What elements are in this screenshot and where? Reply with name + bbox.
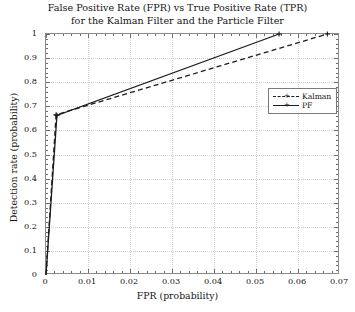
series-line-pf	[46, 34, 279, 275]
roc-chart-figure: False Positive Rate (FPR) vs True Positi…	[0, 0, 355, 312]
data-curves-layer	[46, 34, 340, 275]
x-tick-label: 0.04	[204, 276, 222, 286]
y-tick-label: 0.3	[24, 197, 37, 207]
x-tick-label: 0.07	[330, 276, 348, 286]
chart-title-line-1: False Positive Rate (FPR) vs True Positi…	[0, 2, 355, 15]
x-tick-label: 0.02	[120, 276, 138, 286]
data-point-marker	[325, 31, 330, 36]
x-tick-label: 0.06	[288, 276, 306, 286]
x-tick-label: 0.05	[246, 276, 264, 286]
y-tick-label: 0.2	[24, 221, 37, 231]
legend-swatch-kalman: +	[273, 92, 299, 101]
y-tick-label: 0.5	[24, 149, 37, 159]
y-tick-label: 0.9	[24, 52, 37, 62]
chart-title-line-2: for the Kalman Filter and the Particle F…	[0, 15, 355, 28]
plot-area	[45, 33, 339, 274]
legend-swatch-pf: +	[273, 101, 299, 110]
data-point-marker	[54, 113, 59, 118]
data-point-marker	[277, 31, 282, 36]
legend-item-pf: + PF	[273, 101, 331, 110]
x-axis-title: FPR (probability)	[0, 290, 355, 301]
y-tick-label: 0	[32, 269, 37, 279]
y-tick-label: 0.8	[24, 76, 37, 86]
x-tick-label: 0.01	[78, 276, 96, 286]
series-line-kalman	[46, 34, 327, 275]
legend-item-kalman: + Kalman	[273, 92, 331, 101]
legend-box: + Kalman + PF	[268, 88, 337, 114]
y-tick-label: 1	[32, 28, 37, 38]
y-tick-label: 0.4	[24, 173, 37, 183]
legend-label-kalman: Kalman	[302, 92, 331, 101]
legend-label-pf: PF	[302, 101, 312, 110]
x-tick-label: 0.03	[162, 276, 180, 286]
x-tick-label: 0	[42, 276, 47, 286]
y-tick-label: 0.6	[24, 124, 37, 134]
y-axis-title: Detection rate (probability)	[8, 58, 19, 258]
chart-title: False Positive Rate (FPR) vs True Positi…	[0, 2, 355, 27]
y-tick-label: 0.7	[24, 100, 37, 110]
y-tick-label: 0.1	[24, 245, 37, 255]
